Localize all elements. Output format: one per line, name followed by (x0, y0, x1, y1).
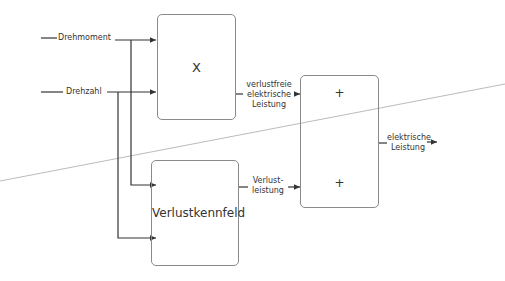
sum-top-sign: + (301, 86, 378, 100)
lossless-power-line3: Leistung (243, 100, 295, 110)
lossless-power-line1: verlustfreie (243, 80, 295, 90)
loss-map-label: Verlustkennfeld (152, 206, 238, 220)
input-label-speed: Drehzahl (66, 87, 102, 97)
input-label-torque: Drehmoment (58, 33, 111, 43)
power-loss-line1: Verlust- (248, 176, 288, 186)
output-power-line2: Leistung (387, 143, 429, 153)
loss-map-block[interactable]: Verlustkennfeld (151, 160, 239, 266)
power-loss-label: Verlust- leistung (248, 176, 288, 196)
sum-bottom-sign: + (301, 176, 378, 190)
sum-block[interactable]: + + (300, 75, 379, 208)
lossless-power-line2: elektrische (243, 90, 295, 100)
power-loss-line2: leistung (248, 186, 288, 196)
multiply-block[interactable]: X (157, 14, 236, 120)
multiply-symbol: X (158, 60, 235, 75)
lossless-power-label: verlustfreie elektrische Leistung (243, 80, 295, 110)
output-power-line1: elektrische (387, 133, 429, 143)
output-power-label: elektrische Leistung (387, 133, 429, 153)
